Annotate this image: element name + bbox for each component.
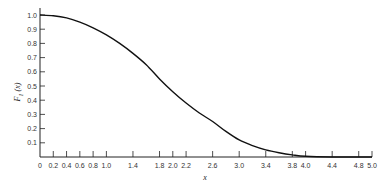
x-tick-label: 2.0 xyxy=(168,162,178,169)
y-tick-label: 0.3 xyxy=(27,111,37,118)
x-tick-label: 0.8 xyxy=(88,162,98,169)
x-tick-label: 3.0 xyxy=(234,162,244,169)
y-tick-label: 0.7 xyxy=(27,54,37,61)
y-tick-label: 0.4 xyxy=(27,97,37,104)
y-tick-label: 0.1 xyxy=(27,139,37,146)
x-tick-label: 0.4 xyxy=(62,162,72,169)
x-tick-label: 4.8 xyxy=(354,162,364,169)
y-axis-title: F1(x) xyxy=(13,82,24,102)
x-tick-label: 4.4 xyxy=(327,162,337,169)
x-axis-title: x xyxy=(202,173,207,182)
line-chart: 0.10.20.30.40.50.60.70.80.91.0 00.20.40.… xyxy=(0,0,387,187)
x-ticks: 00.20.40.60.81.01.41.82.02.22.63.03.43.8… xyxy=(38,151,377,169)
x-tick-label: 4.0 xyxy=(301,162,311,169)
x-tick-label: 2.2 xyxy=(181,162,191,169)
x-tick-label: 5.0 xyxy=(367,162,377,169)
svg-text:F1(x): F1(x) xyxy=(13,82,24,102)
x-tick-label: 1.8 xyxy=(155,162,165,169)
y-tick-label: 0.8 xyxy=(27,40,37,47)
y-tick-label: 1.0 xyxy=(27,12,37,19)
x-tick-label: 1.0 xyxy=(102,162,112,169)
y-tick-label: 0.5 xyxy=(27,83,37,90)
x-tick-label: 0.2 xyxy=(48,162,58,169)
y-tick-label: 0.2 xyxy=(27,125,37,132)
data-line-f1 xyxy=(40,15,372,157)
x-tick-label: 2.6 xyxy=(208,162,218,169)
y-tick-label: 0.9 xyxy=(27,26,37,33)
x-tick-label: 1.4 xyxy=(128,162,138,169)
y-ticks: 0.10.20.30.40.50.60.70.80.91.0 xyxy=(27,12,45,147)
x-tick-label: 0.6 xyxy=(75,162,85,169)
x-tick-label: 3.4 xyxy=(261,162,271,169)
axes xyxy=(40,8,372,157)
x-tick-label: 3.8 xyxy=(287,162,297,169)
x-tick-label: 0 xyxy=(38,162,42,169)
y-tick-label: 0.6 xyxy=(27,68,37,75)
